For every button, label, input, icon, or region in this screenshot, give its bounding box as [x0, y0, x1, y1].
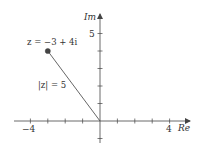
modulus-label: |z| = 5: [38, 80, 66, 91]
real-axis-label: Re: [177, 123, 190, 133]
point-z: [45, 48, 50, 53]
x-tick-label-neg4: −4: [22, 124, 36, 134]
imaginary-axis-label: Im: [83, 12, 96, 22]
x-tick-label-4: 4: [166, 124, 172, 134]
y-tick-label-5: 5: [89, 29, 95, 39]
point-z-label: z = −3 + 4i: [27, 37, 77, 47]
complex-plane-diagram: Im 5 Re −4 4 z = −3 + 4i |z| = 5: [0, 0, 200, 150]
